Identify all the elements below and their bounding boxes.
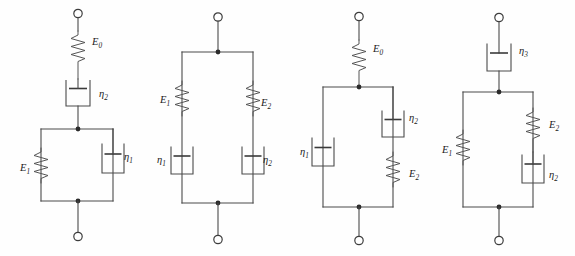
model-3-label-eta2: η2	[409, 112, 418, 126]
model-3-label-E2: E2	[408, 168, 419, 182]
model-3-node-top	[357, 85, 362, 90]
model-4-label-E2: E2	[548, 119, 559, 133]
model-1-node-top	[76, 127, 81, 132]
model-2-top-terminal	[214, 13, 222, 21]
figure-canvas: E0 η2 E1 η1 E1 η1 E2 η2	[0, 0, 575, 256]
model-1-top-terminal	[74, 9, 82, 17]
model-4-label-eta3: η3	[519, 45, 528, 59]
model-1-bottom-terminal	[74, 232, 82, 240]
model-3-label-eta1: η1	[300, 146, 309, 160]
model-4-group: η3 E1 E2 η2	[441, 13, 559, 244]
model-3-top-terminal	[355, 12, 363, 20]
model-1-label-eta2: η2	[99, 88, 108, 102]
viscoelastic-models-diagram: E0 η2 E1 η1 E1 η1 E2 η2	[0, 0, 575, 256]
model-2-label-E2: E2	[260, 97, 271, 111]
model-4-label-eta2: η2	[549, 169, 558, 183]
model-2-group: E1 η1 E2 η2	[157, 13, 272, 244]
model-1-label-E1: E1	[19, 162, 30, 176]
model-2-label-eta1: η1	[157, 154, 166, 168]
model-3-bottom-terminal	[355, 236, 363, 244]
model-1-label-eta1: η1	[124, 151, 133, 165]
model-4-bottom-terminal	[495, 236, 503, 244]
model-3-spring-E0	[352, 40, 366, 87]
model-2-label-E1: E1	[159, 94, 170, 108]
model-4-top-terminal	[495, 13, 503, 21]
model-1-group: E0 η2 E1 η1	[19, 9, 133, 240]
model-4-label-E1: E1	[441, 144, 452, 158]
model-2-bottom-terminal	[214, 235, 222, 243]
model-1-spring-E0	[71, 31, 85, 79]
model-3-label-E0: E0	[372, 43, 383, 57]
model-3-group: E0 η1 η2 E2	[300, 12, 419, 244]
model-4-node-top	[497, 90, 502, 95]
model-1-label-E0: E0	[91, 36, 102, 50]
model-2-node-top	[216, 50, 221, 55]
